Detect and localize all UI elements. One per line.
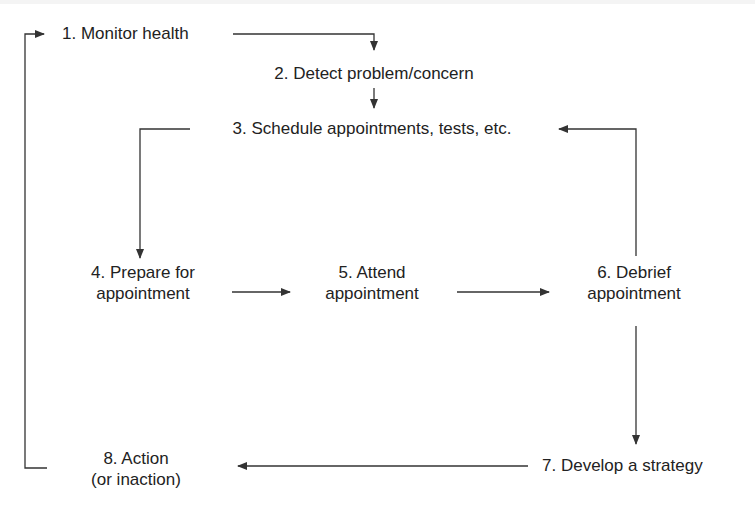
node-4-label-line-2: appointment bbox=[91, 283, 195, 304]
edge-3-to-4 bbox=[140, 129, 190, 258]
node-8-label-line-1: 8. Action bbox=[91, 448, 181, 469]
node-6-label-line-2: appointment bbox=[587, 283, 681, 304]
node-7-develop-strategy: 7. Develop a strategy bbox=[542, 455, 703, 476]
node-3-schedule-appointments: 3. Schedule appointments, tests, etc. bbox=[233, 118, 512, 139]
node-2-label: 2. Detect problem/concern bbox=[274, 63, 473, 84]
node-2-detect-problem: 2. Detect problem/concern bbox=[274, 63, 473, 84]
node-7-label: 7. Develop a strategy bbox=[542, 455, 703, 476]
node-6-label-line-1: 6. Debrief bbox=[587, 262, 681, 283]
node-6-debrief-appointment: 6. Debrief appointment bbox=[587, 262, 681, 304]
node-3-label: 3. Schedule appointments, tests, etc. bbox=[233, 118, 512, 139]
node-5-label-line-1: 5. Attend bbox=[325, 262, 419, 283]
node-8-label-line-2: (or inaction) bbox=[91, 469, 181, 490]
node-1-label: 1. Monitor health bbox=[62, 23, 189, 44]
edge-1-to-2 bbox=[233, 34, 374, 50]
edge-8-to-1 bbox=[25, 34, 47, 468]
node-4-label-line-1: 4. Prepare for bbox=[91, 262, 195, 283]
node-1-monitor-health: 1. Monitor health bbox=[62, 23, 189, 44]
node-5-attend-appointment: 5. Attend appointment bbox=[325, 262, 419, 304]
node-8-action: 8. Action (or inaction) bbox=[91, 448, 181, 490]
node-5-label-line-2: appointment bbox=[325, 283, 419, 304]
edge-6-to-3 bbox=[559, 129, 636, 256]
node-4-prepare-for-appointment: 4. Prepare for appointment bbox=[91, 262, 195, 304]
